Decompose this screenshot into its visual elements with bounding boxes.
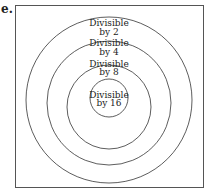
- ring-label-4-line2: by 4: [99, 47, 119, 57]
- ring-label-16-line2: by 16: [96, 98, 121, 108]
- ring-label-8-line2: by 8: [99, 67, 119, 77]
- ring-label-2-line2: by 2: [99, 27, 118, 37]
- venn-diagram: Divisible by 2 Divisible by 4 Divisible …: [0, 0, 205, 191]
